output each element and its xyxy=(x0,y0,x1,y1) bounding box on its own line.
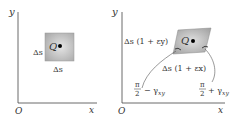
svg-text:− γ: − γ xyxy=(144,86,158,95)
right-point-label: Q xyxy=(181,35,189,46)
svg-text:2: 2 xyxy=(135,90,139,98)
angle-right-label: π 2 + γ xy xyxy=(199,81,229,98)
left-y-label: y xyxy=(8,6,15,17)
right-side-vertical-label: Δs (1 + εy) xyxy=(124,37,168,46)
left-side-vertical-label: Δs xyxy=(33,48,43,57)
left-panel: y x O Q Δs Δs xyxy=(8,6,97,116)
left-point-label: Q xyxy=(49,41,57,52)
left-origin-label: O xyxy=(15,106,23,116)
right-x-label: x xyxy=(218,105,223,115)
svg-text:π: π xyxy=(200,81,205,89)
svg-text:xy: xy xyxy=(222,89,229,97)
right-point-q xyxy=(191,39,195,43)
right-side-horizontal-label: Δs (1 + εx) xyxy=(162,64,206,73)
right-panel: y x O Q Δs (1 + εy) Δs (1 + εx) π 2 − γ … xyxy=(111,6,229,116)
svg-text:π: π xyxy=(135,81,140,89)
svg-text:+ γ: + γ xyxy=(208,86,222,95)
strain-diagram: y x O Q Δs Δs y x O Q Δs (1 + εy) Δs (1 … xyxy=(0,0,240,122)
svg-text:xy: xy xyxy=(158,89,165,97)
left-x-label: x xyxy=(89,105,94,115)
svg-text:2: 2 xyxy=(200,90,204,98)
left-side-horizontal-label: Δs xyxy=(53,65,63,74)
angle-left-label: π 2 − γ xy xyxy=(134,81,165,98)
leader-right xyxy=(205,49,215,82)
left-point-q xyxy=(58,44,62,48)
right-y-label: y xyxy=(111,6,118,17)
right-origin-label: O xyxy=(118,106,126,116)
